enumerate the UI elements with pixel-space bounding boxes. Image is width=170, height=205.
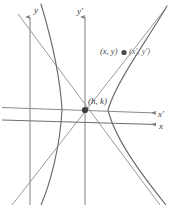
x-axis-line: [2, 120, 156, 125]
x-axis-label: x: [159, 122, 163, 131]
y-axis-label: y: [34, 6, 38, 15]
figure-canvas: [0, 0, 170, 205]
marked-point-label-primed: (x′, y′): [129, 47, 150, 56]
hyperbola-left-branch: [41, 4, 62, 205]
marked-point-marker: [121, 50, 126, 55]
hyperbola-figure: y y′ x′ x (h, k) (x, y) (x′, y′): [0, 0, 170, 205]
center-point-marker: [82, 107, 88, 113]
marked-point-label-unprimed: (x, y): [100, 47, 117, 56]
center-point-label: (h, k): [88, 97, 107, 106]
x-prime-axis-line: [2, 108, 156, 114]
x-prime-axis-label: x′: [158, 110, 164, 119]
y-prime-axis-label: y′: [77, 7, 83, 16]
